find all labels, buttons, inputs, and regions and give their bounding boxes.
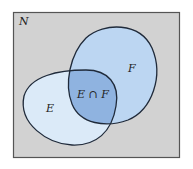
venn-diagram: N F E E ∩ F bbox=[0, 0, 193, 169]
universe-label: N bbox=[18, 15, 29, 28]
set-e-label: E bbox=[45, 102, 54, 115]
set-f-label: F bbox=[127, 62, 136, 75]
intersection-label: E ∩ F bbox=[76, 88, 109, 101]
